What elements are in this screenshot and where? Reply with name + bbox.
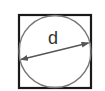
diameter-label: d xyxy=(46,29,60,47)
inscribed-circle-diagram: d xyxy=(0,0,105,91)
